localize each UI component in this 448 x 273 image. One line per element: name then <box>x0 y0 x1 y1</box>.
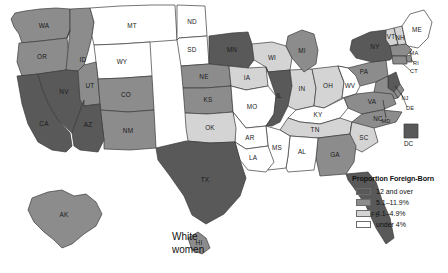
state-label-mo: MO <box>247 103 258 110</box>
state-label-la: LA <box>249 154 258 161</box>
state-label-il: IL <box>276 92 282 99</box>
state-label-tn: TN <box>311 126 320 133</box>
legend-item-high: 12 and over <box>356 186 446 197</box>
us-map-svg: WAORIDMTNDSDMNWIWYNEIACANVUTCOKSMOILINOH… <box>0 0 448 273</box>
state-label-mt: MT <box>127 22 137 29</box>
state-label-mn: MN <box>227 46 238 53</box>
state-ct[interactable] <box>392 56 407 64</box>
state-label-ri: RI <box>413 60 419 66</box>
state-label-nc: NC <box>373 115 383 122</box>
state-label-ak: AK <box>60 211 69 218</box>
choropleth-map: WAORIDMTNDSDMNWIWYNEIACANVUTCOKSMOILINOH… <box>0 0 448 273</box>
state-label-sc: SC <box>359 134 368 141</box>
state-label-ct: CT <box>410 68 418 74</box>
legend-item-mid: 5.1–11.9% <box>356 197 446 208</box>
legend-item-lowest: under 4% <box>356 219 446 230</box>
legend-label-high: 12 and over <box>376 188 413 195</box>
state-label-sd: SD <box>187 46 196 53</box>
state-label-ma: MA <box>410 50 419 56</box>
legend-swatch-lowest <box>356 221 371 228</box>
legend-title: Proportion Foreign-Born <box>352 174 446 183</box>
state-label-wv: WV <box>345 82 356 89</box>
state-label-de: DE <box>406 105 414 111</box>
state-ak[interactable] <box>28 190 102 248</box>
state-label-nd: ND <box>187 18 197 25</box>
state-label-or: OR <box>37 53 47 60</box>
state-label-ca: CA <box>39 120 49 127</box>
legend-swatch-high <box>356 188 371 195</box>
state-label-co: CO <box>121 91 131 98</box>
state-label-vt: VT <box>387 33 396 40</box>
state-label-pa: PA <box>360 68 369 75</box>
state-label-ne: NE <box>199 73 208 80</box>
caption-line-1: White <box>172 231 204 244</box>
state-label-ks: KS <box>204 96 213 103</box>
state-label-id: ID <box>80 56 87 63</box>
state-label-az: AZ <box>84 121 93 128</box>
dc-marker-label: DC <box>404 140 413 147</box>
state-label-ar: AR <box>245 134 254 141</box>
map-caption: White women <box>172 231 204 256</box>
state-label-wy: WY <box>117 58 128 65</box>
state-label-ga: GA <box>330 151 340 158</box>
legend-label-lowest: under 4% <box>376 221 406 228</box>
state-label-ok: OK <box>205 124 215 131</box>
legend-swatch-low <box>356 210 371 217</box>
state-label-ms: MS <box>272 144 282 151</box>
state-label-ut: UT <box>86 82 95 89</box>
state-label-tx: TX <box>201 176 210 183</box>
state-label-nm: NM <box>123 127 133 134</box>
legend-item-low: 4.1–4.9% <box>356 208 446 219</box>
state-label-wi: WI <box>268 54 276 61</box>
legend-label-low: 4.1–4.9% <box>376 210 406 217</box>
map-legend: Proportion Foreign-Born 12 and over 5.1–… <box>352 174 446 230</box>
legend-label-mid: 5.1–11.9% <box>376 199 409 206</box>
state-label-ia: IA <box>244 74 251 81</box>
dc-marker-square[interactable] <box>404 124 418 138</box>
state-label-nh: NH <box>395 34 405 41</box>
state-label-me: ME <box>412 26 422 33</box>
state-label-nv: NV <box>59 88 69 95</box>
legend-swatch-mid <box>356 199 371 206</box>
state-label-nj: NJ <box>401 95 408 101</box>
state-label-ky: KY <box>314 111 323 118</box>
state-label-ny: NY <box>370 43 380 50</box>
state-label-in: IN <box>299 85 306 92</box>
state-label-oh: OH <box>323 82 333 89</box>
state-label-mi: MI <box>298 47 306 54</box>
state-label-al: AL <box>298 148 306 155</box>
state-label-va: VA <box>368 98 377 105</box>
state-label-wa: WA <box>39 22 50 29</box>
caption-line-2: women <box>172 244 204 257</box>
